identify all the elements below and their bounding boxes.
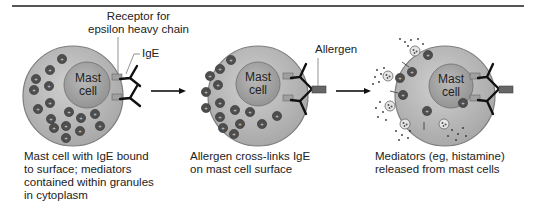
arrow-2 <box>336 88 371 94</box>
panel-2-nucleus-label: Mast cell <box>244 71 272 97</box>
caption-line: Mediators (eg, histamine) <box>375 150 505 163</box>
caption-line: to surface; mediators <box>24 163 154 176</box>
panel-1-caption: Mast cell with IgE bound to surface; med… <box>24 150 154 202</box>
panel-2-caption: Allergen cross-links IgE on mast cell su… <box>190 150 310 176</box>
caption-line: Mast cell with IgE bound <box>24 150 154 163</box>
allergen-block <box>312 86 326 93</box>
ige-label: IgE <box>142 47 159 60</box>
caption-line: on mast cell surface <box>190 163 310 176</box>
panel-3-caption: Mediators (eg, histamine) released from … <box>375 150 505 176</box>
nucleus-label-line2: cell <box>74 85 102 98</box>
allergen-label: Allergen <box>315 43 357 56</box>
caption-line: contained within granules <box>24 176 154 189</box>
panel-3-nucleus-label: Mast cell <box>437 73 465 99</box>
caption-line: Allergen cross-links IgE <box>190 150 310 163</box>
panel-1-nucleus-label: Mast cell <box>74 72 102 98</box>
caption-line: released from mast cells <box>375 163 505 176</box>
receptor-label-line2: epsilon heavy chain <box>88 23 189 36</box>
receptor-label: Receptor for epsilon heavy chain <box>88 10 189 36</box>
nucleus-label-line2: cell <box>437 86 465 99</box>
receptor-label-line1: Receptor for <box>88 10 189 23</box>
nucleus-label-line2: cell <box>244 84 272 97</box>
arrow-1 <box>151 88 186 94</box>
caption-line: in cytoplasm <box>24 189 154 202</box>
